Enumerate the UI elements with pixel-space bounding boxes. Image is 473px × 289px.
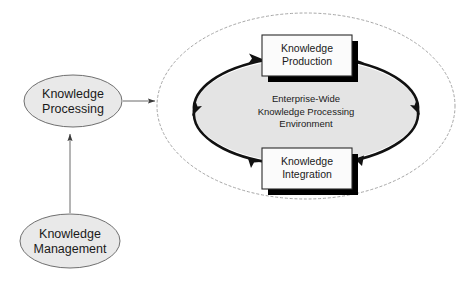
knowledge-integration-box[interactable] — [262, 148, 352, 189]
knowledge-processing-ellipse[interactable] — [24, 75, 122, 127]
knowledge-production-box[interactable] — [262, 35, 352, 76]
diagram-canvas: Knowledge Processing Knowledge Managemen… — [0, 0, 473, 289]
diagram-vector-layer — [0, 0, 473, 289]
knowledge-management-ellipse[interactable] — [20, 214, 120, 268]
